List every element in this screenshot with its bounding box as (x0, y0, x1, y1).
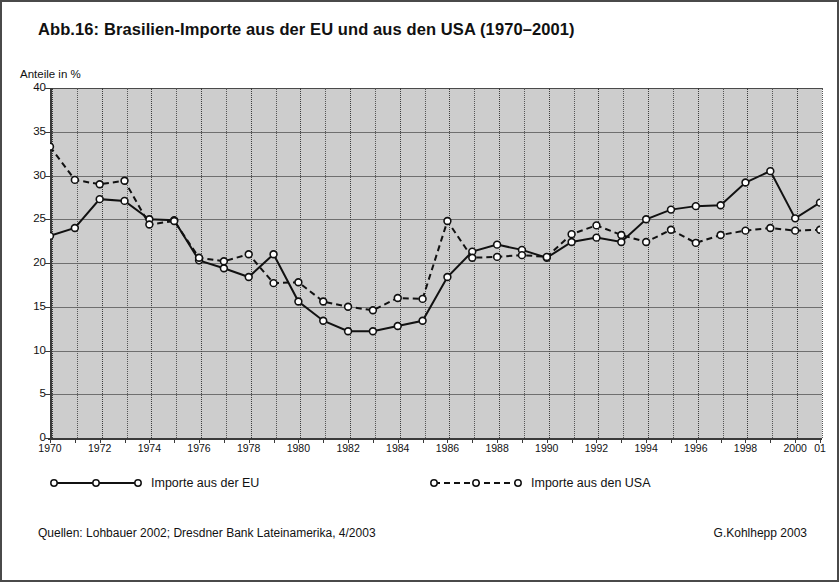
x-axis-tick-label: 01 (814, 442, 826, 454)
y-axis-tick-mark (45, 394, 50, 395)
x-axis-tick-mark (125, 438, 126, 443)
y-axis-tick-label: 40 (16, 82, 46, 94)
x-axis-tick-label: 1994 (634, 442, 657, 454)
data-point-marker (295, 279, 302, 286)
y-axis-tick-mark (45, 219, 50, 220)
y-axis-ticks: 0510152025303540 (12, 88, 46, 438)
data-point-marker (643, 216, 650, 223)
data-point-marker (394, 323, 401, 330)
y-axis-tick-mark (45, 88, 50, 89)
data-point-marker (320, 317, 327, 324)
series-line-2 (50, 147, 820, 311)
data-point-marker (568, 231, 575, 238)
y-axis-tick-mark (45, 307, 50, 308)
data-point-marker (469, 254, 476, 261)
x-axis-tick-mark (522, 438, 523, 443)
data-point-marker (792, 215, 799, 222)
y-axis-tick-mark (45, 351, 50, 352)
data-point-marker (345, 328, 352, 335)
x-axis-tick-mark (323, 438, 324, 443)
series-line-1 (50, 171, 820, 331)
data-point-marker (220, 258, 227, 265)
data-point-marker (419, 295, 426, 302)
data-point-marker (767, 168, 774, 175)
x-axis-tick-label: 1978 (237, 442, 260, 454)
data-point-marker (146, 221, 153, 228)
y-axis-tick-mark (45, 263, 50, 264)
x-axis-tick-label: 1996 (684, 442, 707, 454)
x-axis-tick-label: 1974 (138, 442, 161, 454)
legend-entry-1[interactable]: Importe aus der EU (50, 472, 259, 494)
data-point-marker (742, 179, 749, 186)
data-point-marker (96, 196, 103, 203)
x-axis-tick-label: 1982 (336, 442, 359, 454)
data-point-marker (692, 239, 699, 246)
x-axis-tick-mark (721, 438, 722, 443)
data-point-marker (444, 274, 451, 281)
series-layer (50, 88, 820, 438)
x-axis-tick-mark (621, 438, 622, 443)
data-point-marker (270, 280, 277, 287)
y-axis-tick-label: 10 (16, 345, 46, 357)
data-point-marker (121, 197, 128, 204)
y-axis-tick-label: 30 (16, 170, 46, 182)
y-axis-tick-mark (45, 176, 50, 177)
data-point-marker (494, 253, 501, 260)
data-point-marker (121, 177, 128, 184)
data-point-marker (270, 251, 277, 258)
x-axis-tick-label: 1990 (535, 442, 558, 454)
dashed-line-marker-icon (430, 476, 522, 490)
x-axis-tick-label: 1998 (734, 442, 757, 454)
solid-line-marker-icon (50, 476, 142, 490)
data-point-marker (50, 143, 53, 150)
data-point-marker (742, 227, 749, 234)
x-axis-tick-label: 1970 (38, 442, 61, 454)
x-axis-tick-label: 1972 (88, 442, 111, 454)
legend-entry-2[interactable]: Importe aus den USA (430, 472, 651, 494)
data-point-marker (50, 232, 53, 239)
data-point-marker (717, 232, 724, 239)
data-point-marker (792, 227, 799, 234)
x-axis-tick-label: 1980 (287, 442, 310, 454)
legend-label: Importe aus den USA (531, 476, 651, 490)
data-point-marker (817, 199, 820, 206)
data-point-marker (370, 307, 377, 314)
data-point-marker (394, 295, 401, 302)
data-point-marker (568, 239, 575, 246)
x-axis-tick-mark (770, 438, 771, 443)
figure-title: Abb.16: Brasilien-Importe aus der EU und… (38, 20, 575, 39)
data-point-marker (692, 203, 699, 210)
y-axis-tick-label: 35 (16, 126, 46, 138)
data-point-marker (345, 303, 352, 310)
x-axis-tick-mark (671, 438, 672, 443)
data-point-marker (171, 218, 178, 225)
source-note: Quellen: Lohbauer 2002; Dresdner Bank La… (38, 526, 376, 540)
data-point-marker (593, 234, 600, 241)
y-axis-tick-label: 5 (16, 388, 46, 400)
y-axis-tick-label: 25 (16, 213, 46, 225)
x-axis-tick-label: 1976 (187, 442, 210, 454)
y-axis-tick-label: 15 (16, 301, 46, 313)
gridline-vertical (822, 88, 823, 438)
data-point-marker (643, 239, 650, 246)
data-point-marker (295, 298, 302, 305)
data-point-marker (618, 232, 625, 239)
data-point-marker (593, 222, 600, 229)
legend: Importe aus der EUImporte aus den USA (42, 472, 802, 498)
data-point-marker (96, 181, 103, 188)
data-point-marker (370, 328, 377, 335)
data-point-marker (71, 176, 78, 183)
x-axis-tick-label: 1986 (436, 442, 459, 454)
x-axis-tick-label: 1984 (386, 442, 409, 454)
data-point-marker (220, 265, 227, 272)
data-point-marker (196, 254, 203, 261)
data-point-marker (668, 206, 675, 213)
figure-panel: Abb.16: Brasilien-Importe aus der EU und… (0, 0, 839, 582)
x-axis-tick-mark (373, 438, 374, 443)
x-axis-tick-mark (224, 438, 225, 443)
data-point-marker (767, 225, 774, 232)
credit-note: G.Kohlhepp 2003 (714, 526, 807, 540)
y-axis-tick-label: 20 (16, 257, 46, 269)
data-point-marker (618, 239, 625, 246)
legend-label: Importe aus der EU (151, 476, 259, 490)
